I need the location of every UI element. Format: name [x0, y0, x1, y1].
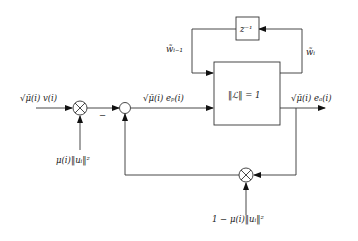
- minus-sign: −: [99, 110, 106, 120]
- block-diagram: √μ̄(i) v(i) μ(i)‖uᵢ‖² − √μ̄(i) eₚ(i) ‖ℒ‖…: [0, 0, 358, 241]
- state-label: w̃ᵢ: [306, 47, 315, 57]
- multiplier-2-gain-label: 1 − μ(i)‖uᵢ‖²: [212, 214, 264, 225]
- multiplier-1-gain-label: μ(i)‖uᵢ‖²: [56, 155, 91, 166]
- output-label: √μ̄(i) eₐ(i): [291, 93, 332, 103]
- error-label: √μ̄(i) eₚ(i): [143, 93, 184, 103]
- input-label: √μ̄(i) v(i): [20, 93, 57, 103]
- main-block-label: ‖ℒ‖ = 1: [228, 90, 260, 101]
- multiplier-2: [239, 168, 253, 182]
- multiplier-1: [73, 101, 87, 115]
- delay-label: z⁻¹: [239, 24, 252, 34]
- state-prev-label: w̃ᵢ₋₁: [166, 44, 183, 54]
- summing-junction: [120, 103, 131, 114]
